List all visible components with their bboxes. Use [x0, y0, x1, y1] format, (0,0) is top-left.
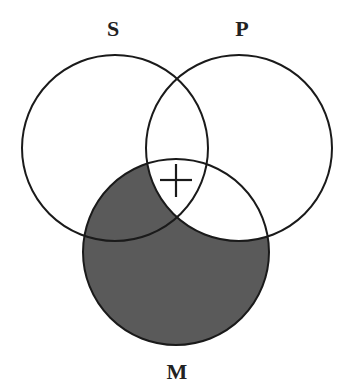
label-s: S — [107, 16, 119, 41]
label-m: M — [167, 359, 188, 384]
label-p: P — [235, 16, 248, 41]
shaded-region-m-minus-p — [0, 0, 361, 391]
venn-diagram: S P M — [0, 0, 361, 391]
